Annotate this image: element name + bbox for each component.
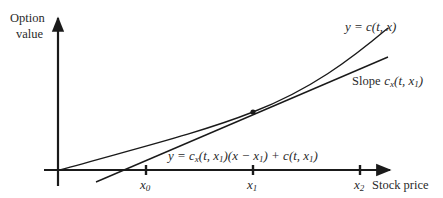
y-axis-label-line2: value — [16, 28, 43, 41]
tangent-point — [250, 109, 255, 114]
tick-label-x2: x2 — [354, 178, 364, 191]
tangent-equation-label: y = cx(t, x1)(x − x1) + c(t, x1) — [168, 149, 318, 162]
tick-label-x1: x1 — [247, 178, 257, 191]
y-axis-label-line1: Option — [10, 12, 45, 25]
curve-label: y = c(t, x) — [345, 20, 396, 33]
tangent-line — [96, 57, 388, 182]
tangent-slope-label: Slope cx(t, x1) — [352, 74, 423, 88]
x-axis-label: Stock price — [372, 179, 429, 192]
tick-label-x0: x0 — [140, 178, 150, 191]
